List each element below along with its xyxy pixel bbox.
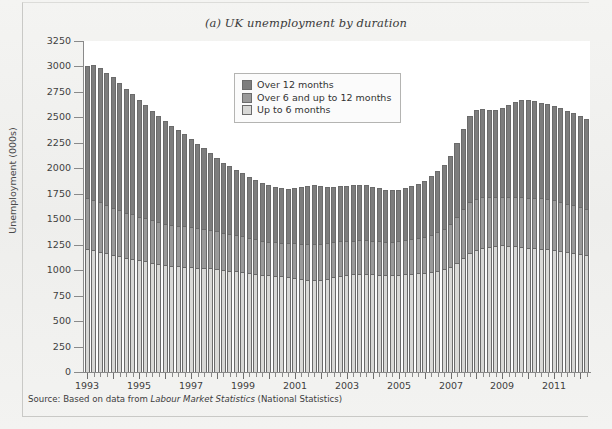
- bar-segment: [273, 242, 278, 276]
- x-axis-tick: [223, 373, 224, 377]
- x-axis-tick: [580, 373, 581, 379]
- x-axis-tick: [483, 373, 484, 377]
- legend-swatch-icon: [242, 80, 252, 90]
- x-axis-tick: [379, 373, 380, 377]
- source-publication: Labour Market Statistics: [151, 394, 255, 404]
- bar-segment: [234, 271, 239, 372]
- bar-column: [85, 41, 90, 372]
- bar-segment: [331, 277, 336, 372]
- bar-column: [584, 41, 589, 372]
- bar-segment: [130, 259, 135, 372]
- x-axis-tick: [288, 373, 289, 377]
- bar-segment: [117, 210, 122, 256]
- y-axis-tick-label: 1250: [47, 239, 71, 250]
- bar-segment: [279, 276, 284, 372]
- bar-column: [124, 41, 129, 372]
- bar-segment: [480, 197, 485, 248]
- bar-column: [474, 41, 479, 372]
- bar-segment: [532, 248, 537, 372]
- x-axis-tick: [347, 373, 348, 379]
- x-axis-tick: [198, 373, 199, 377]
- bar-column: [176, 41, 181, 372]
- bar-segment: [429, 272, 434, 372]
- x-axis-tick: [444, 373, 445, 377]
- bar-segment: [143, 261, 148, 372]
- bar-segment: [571, 113, 576, 205]
- bar-segment: [474, 199, 479, 250]
- bar-segment: [390, 190, 395, 241]
- bar-segment: [208, 230, 213, 268]
- bar-segment: [130, 94, 135, 214]
- x-axis-tick: [489, 373, 490, 377]
- x-axis-tick: [405, 373, 406, 377]
- x-axis-tick: [515, 373, 516, 377]
- bar-segment: [234, 235, 239, 271]
- bar-segment: [273, 187, 278, 243]
- bar-column: [98, 41, 103, 372]
- x-axis-tick: [256, 373, 257, 377]
- bar-segment: [189, 227, 194, 267]
- y-axis-tick-label: 1750: [47, 188, 71, 199]
- x-axis-tick: [340, 373, 341, 377]
- bar-segment: [416, 238, 421, 273]
- bar-segment: [292, 278, 297, 372]
- bar-segment: [383, 190, 388, 242]
- bar-column: [150, 41, 155, 372]
- bar-segment: [539, 103, 544, 199]
- bar-segment: [500, 197, 505, 245]
- y-axis-tick-label: 250: [53, 341, 71, 352]
- bar-segment: [195, 144, 200, 229]
- bar-segment: [227, 166, 232, 234]
- bar-column: [195, 41, 200, 372]
- bar-segment: [435, 171, 440, 233]
- bar-column: [506, 41, 511, 372]
- bar-segment: [117, 83, 122, 210]
- bar-segment: [98, 202, 103, 251]
- bar-segment: [312, 244, 317, 280]
- x-axis-tick: [502, 373, 503, 379]
- x-axis-tick-label: 2001: [283, 380, 307, 391]
- bar-segment: [429, 176, 434, 235]
- bar-segment: [364, 274, 369, 372]
- bar-segment: [383, 275, 388, 372]
- bar-segment: [571, 205, 576, 252]
- y-axis-tick: [74, 245, 83, 246]
- y-axis-tick-label: 2000: [47, 162, 71, 173]
- bar-segment: [539, 198, 544, 248]
- bar-segment: [448, 224, 453, 267]
- x-axis-tick: [399, 373, 400, 379]
- bar-column: [467, 41, 472, 372]
- bar-column: [578, 41, 583, 372]
- bar-segment: [156, 264, 161, 372]
- y-axis-tick: [74, 92, 83, 93]
- bar-segment: [422, 237, 427, 273]
- y-axis-tick-label: 1000: [47, 264, 71, 275]
- bar-segment: [519, 247, 524, 372]
- y-axis-tick: [74, 168, 83, 169]
- bar-segment: [208, 268, 213, 372]
- bar-segment: [163, 224, 168, 265]
- x-axis-tick: [496, 373, 497, 377]
- bar-segment: [338, 276, 343, 372]
- bar-column: [429, 41, 434, 372]
- bar-segment: [532, 198, 537, 248]
- x-axis-tick: [334, 373, 335, 377]
- x-axis-tick: [146, 373, 147, 377]
- bar-segment: [137, 217, 142, 261]
- bar-segment: [150, 220, 155, 262]
- bar-column: [480, 41, 485, 372]
- bar-segment: [578, 254, 583, 372]
- bar-segment: [409, 186, 414, 239]
- bar-segment: [312, 185, 317, 244]
- bar-column: [163, 41, 168, 372]
- bar-segment: [201, 229, 206, 268]
- bar-segment: [124, 258, 129, 372]
- x-axis-tick: [126, 373, 127, 377]
- y-axis-tick: [74, 296, 83, 297]
- bar-segment: [169, 225, 174, 266]
- bar-segment: [552, 106, 557, 201]
- bar-segment: [338, 186, 343, 241]
- bar-segment: [156, 116, 161, 222]
- bar-segment: [370, 187, 375, 241]
- bar-segment: [163, 121, 168, 224]
